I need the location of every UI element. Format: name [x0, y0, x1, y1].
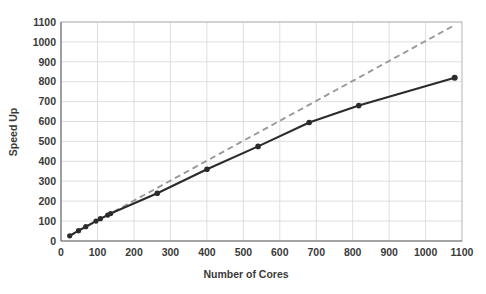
x-tick-label: 300: [162, 246, 180, 258]
y-tick-label: 0: [50, 235, 56, 247]
y-tick-label: 600: [38, 115, 56, 127]
x-tick-label: 1000: [414, 246, 438, 258]
x-tick-label: 500: [235, 246, 253, 258]
x-tick-label: 900: [380, 246, 398, 258]
x-tick-label: 800: [344, 246, 362, 258]
y-tick-label: 100: [38, 215, 56, 227]
y-tick-label: 800: [38, 75, 56, 87]
x-tick-label: 0: [58, 246, 64, 258]
data-point: [452, 75, 458, 81]
x-axis-title: Number of Cores: [203, 268, 288, 280]
y-tick-label: 500: [38, 135, 56, 147]
y-tick-label: 1100: [33, 16, 56, 28]
data-point: [356, 103, 362, 109]
x-tick-label: 1100: [451, 246, 474, 258]
y-tick-label: 900: [38, 56, 56, 68]
x-tick-label: 600: [271, 246, 289, 258]
chart-canvas: 0 100 200 300 400 500 600 700 800 900 10…: [0, 0, 486, 294]
data-point: [93, 219, 98, 224]
data-point: [255, 144, 261, 150]
x-tick-label: 100: [89, 246, 107, 258]
y-axis-title: Speed Up: [7, 108, 19, 156]
data-point: [76, 228, 81, 233]
y-tick-label: 400: [38, 155, 56, 167]
x-tick-labels: 0 100 200 300 400 500 600 700 800 900 10…: [58, 246, 473, 258]
y-tick-label: 1000: [33, 36, 57, 48]
x-tick-label: 200: [125, 246, 143, 258]
speedup-chart: 0 100 200 300 400 500 600 700 800 900 10…: [0, 0, 486, 294]
data-point: [83, 224, 88, 229]
data-point: [67, 233, 72, 238]
data-point: [155, 190, 161, 196]
y-tick-label: 300: [38, 175, 56, 187]
y-tick-labels: 0 100 200 300 400 500 600 700 800 900 10…: [33, 16, 57, 247]
x-tick-label: 700: [308, 246, 326, 258]
x-tick-label: 400: [198, 246, 216, 258]
data-point: [204, 167, 210, 173]
data-point: [306, 120, 312, 126]
y-tick-label: 200: [38, 195, 56, 207]
data-point: [108, 211, 113, 216]
data-point: [98, 216, 103, 221]
y-tick-label: 700: [38, 95, 56, 107]
